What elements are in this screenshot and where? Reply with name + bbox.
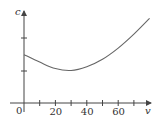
origin-label: 0 [16, 106, 22, 116]
x-axis-label: v [145, 106, 151, 116]
data-curve [24, 18, 150, 70]
x-tick-label: 40 [81, 107, 94, 117]
chart-canvas [0, 0, 159, 122]
x-tick-label: 60 [112, 107, 125, 117]
y-axis-label: c [15, 7, 21, 17]
x-tick-label: 20 [49, 107, 62, 117]
